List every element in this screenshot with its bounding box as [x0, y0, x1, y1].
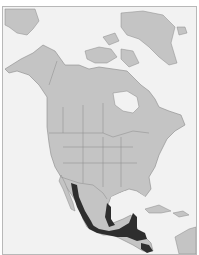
- map-frame: [2, 6, 197, 255]
- range-map: [3, 7, 196, 254]
